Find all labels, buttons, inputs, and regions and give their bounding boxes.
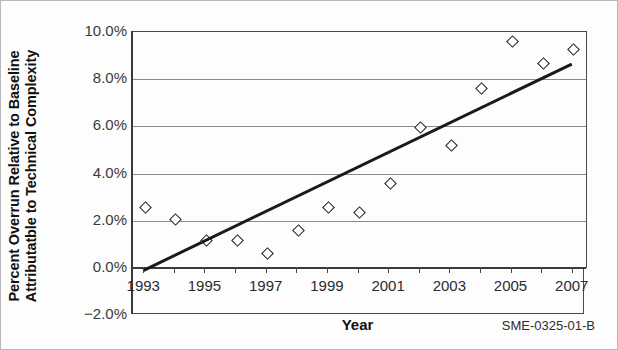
y-tick-label: 10.0% <box>59 22 127 39</box>
x-tick-label: 2005 <box>494 277 527 294</box>
y-axis-title-line2: Attributatble to Technical Complexity <box>23 50 40 302</box>
x-tick-label: 2003 <box>433 277 466 294</box>
y-tick-label: 2.0% <box>59 211 127 228</box>
y-tick-label: −2.0% <box>59 305 127 322</box>
y-axis-tick-labels: 10.0%8.0%6.0%4.0%2.0%0.0%−2.0% <box>55 1 127 350</box>
x-tick <box>204 267 205 273</box>
x-tick <box>296 267 297 273</box>
x-tick <box>327 267 328 273</box>
x-tick-label: 1993 <box>127 277 160 294</box>
x-tick <box>174 267 175 273</box>
x-tick <box>388 267 389 273</box>
x-tick <box>572 267 573 273</box>
y-tick-label: 8.0% <box>59 69 127 86</box>
y-axis-title: Percent Overrun Relative to Baseline Att… <box>1 1 45 350</box>
x-tick <box>480 267 481 273</box>
x-tick <box>235 267 236 273</box>
x-tick <box>419 267 420 273</box>
x-tick <box>541 267 542 273</box>
x-tick-label: 1999 <box>310 277 343 294</box>
y-tick-label: 4.0% <box>59 164 127 181</box>
y-axis-title-line1: Percent Overrun Relative to Baseline <box>6 50 23 302</box>
x-tick <box>266 267 267 273</box>
x-tick <box>143 267 144 273</box>
x-tick-label: 2007 <box>555 277 588 294</box>
source-note: SME-0325-01-B <box>502 318 595 333</box>
x-tick-label: 1995 <box>188 277 221 294</box>
x-tick <box>449 267 450 273</box>
chart-figure: Percent Overrun Relative to Baseline Att… <box>0 0 618 350</box>
x-tick-label: 2001 <box>371 277 404 294</box>
x-tick <box>358 267 359 273</box>
x-tick <box>511 267 512 273</box>
x-tick-label: 1997 <box>249 277 282 294</box>
y-tick-label: 6.0% <box>59 116 127 133</box>
trend-line <box>131 31 586 271</box>
y-tick-label: 0.0% <box>59 258 127 275</box>
